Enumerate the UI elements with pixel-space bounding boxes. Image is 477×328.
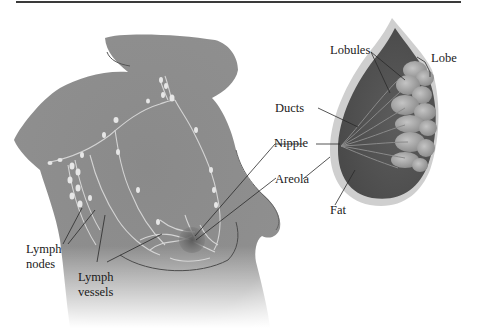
label-ducts: Ducts [275, 101, 304, 116]
anatomy-illustration [0, 0, 477, 328]
label-lobe: Lobe [431, 51, 457, 66]
label-lymph-vessels: Lymph vessels [78, 270, 113, 300]
label-lobules: Lobules [330, 43, 370, 58]
label-fat: Fat [330, 203, 346, 218]
label-nipple: Nipple [274, 136, 308, 151]
label-areola: Areola [275, 172, 309, 187]
label-lymph-nodes: Lymph nodes [26, 242, 61, 272]
areola [179, 227, 205, 253]
